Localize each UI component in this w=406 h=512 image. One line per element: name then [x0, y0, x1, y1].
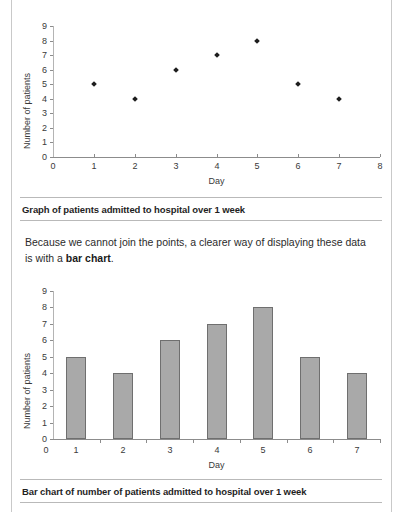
bar-y-tick-label: 1: [25, 419, 47, 428]
scatter-y-tick-label: 9: [25, 22, 47, 31]
scatter-y-axis-line: [53, 26, 54, 157]
bar-y-tick-label: 9: [25, 287, 47, 296]
bar-x-tick-mark: [333, 439, 334, 443]
bar-x-tick-mark: [193, 439, 194, 443]
bar-column: [207, 324, 227, 439]
bar-y-tick-mark: [50, 357, 53, 358]
scatter-x-tick-mark: [257, 154, 258, 157]
scatter-data-point: [132, 96, 138, 102]
scatter-x-tick-label: 2: [125, 162, 145, 171]
bar-y-tick-mark: [50, 291, 53, 292]
scatter-y-tick-label: 2: [25, 124, 47, 133]
scatter-y-tick-mark: [50, 41, 53, 42]
scatter-y-tick-label: 0: [25, 153, 47, 162]
bar-y-tick-mark: [50, 340, 53, 341]
caption1-rule-bottom: [20, 220, 382, 221]
scatter-y-tick-label: 1: [25, 138, 47, 147]
caption1-rule-top: [20, 197, 382, 198]
bar-column: [160, 340, 180, 439]
bar-y-tick-mark: [50, 307, 53, 308]
bar-x-tick-mark: [287, 439, 288, 443]
bar-y-tick-label: 4: [25, 369, 47, 378]
bar-y-tick-mark: [50, 439, 53, 440]
bar-y-tick-label: 3: [25, 386, 47, 395]
figure1-caption: Graph of patients admitted to hospital o…: [22, 204, 245, 215]
bar-origin-label: 0: [39, 446, 53, 455]
bar-y-tick-label: 2: [25, 402, 47, 411]
scatter-y-tick-mark: [50, 99, 53, 100]
bar-x-tick-label: 7: [345, 446, 369, 455]
bar-x-tick-label: 3: [158, 446, 182, 455]
bar-x-tick-label: 4: [205, 446, 229, 455]
bar-y-tick-label: 7: [25, 320, 47, 329]
scatter-x-tick-label: 4: [207, 162, 227, 171]
bar-y-tick-label: 5: [25, 353, 47, 362]
bar-x-tick-label: 2: [111, 446, 135, 455]
bar-y-tick-mark: [50, 406, 53, 407]
bar-x-axis-label: Day: [53, 460, 380, 470]
body-paragraph-bold: bar chart: [66, 252, 111, 264]
bar-column: [253, 307, 273, 439]
bar-column: [113, 373, 133, 439]
scatter-data-point: [255, 38, 261, 44]
bar-y-axis-line: [53, 291, 54, 439]
bar-x-tick-mark: [146, 439, 147, 443]
scatter-x-tick-mark: [339, 154, 340, 157]
bar-x-tick-mark: [240, 439, 241, 443]
bar-column: [300, 357, 320, 439]
bar-figure: Number of patients Day 01234567891234567…: [0, 283, 406, 468]
bar-y-tick-label: 6: [25, 336, 47, 345]
caption2-rule-top: [20, 479, 382, 480]
scatter-x-axis-label: Day: [53, 176, 380, 186]
bar-x-tick-mark: [380, 439, 381, 443]
scatter-data-point: [336, 96, 342, 102]
bar-plot-area: 012345678912345670: [53, 291, 380, 439]
bar-x-tick-mark: [100, 439, 101, 443]
scatter-data-point: [91, 81, 97, 87]
scatter-x-tick-label: 3: [166, 162, 186, 171]
scatter-x-tick-label: 1: [84, 162, 104, 171]
scatter-y-tick-mark: [50, 70, 53, 71]
scatter-x-tick-label: 5: [247, 162, 267, 171]
scatter-y-tick-mark: [50, 113, 53, 114]
caption2-rule-bottom: [20, 502, 382, 503]
scatter-y-tick-label: 6: [25, 66, 47, 75]
scatter-x-tick-mark: [380, 154, 381, 157]
bar-column: [347, 373, 367, 439]
scatter-data-point: [173, 67, 179, 73]
scatter-y-tick-mark: [50, 128, 53, 129]
bar-y-tick-mark: [50, 390, 53, 391]
scatter-y-tick-label: 4: [25, 95, 47, 104]
scatter-y-tick-label: 5: [25, 80, 47, 89]
scatter-figure: Number of patients Day 01234567890123456…: [0, 18, 406, 188]
scatter-x-tick-mark: [176, 154, 177, 157]
bar-y-tick-mark: [50, 324, 53, 325]
scatter-y-tick-label: 7: [25, 51, 47, 60]
scatter-x-tick-mark: [298, 154, 299, 157]
body-paragraph-tail: .: [111, 252, 114, 264]
scatter-x-tick-mark: [135, 154, 136, 157]
scatter-x-tick-label: 6: [288, 162, 308, 171]
scatter-y-tick-mark: [50, 157, 53, 158]
scatter-y-tick-label: 8: [25, 37, 47, 46]
clipped-header-text: [0, 0, 406, 2]
bar-y-tick-mark: [50, 373, 53, 374]
scatter-y-tick-label: 3: [25, 109, 47, 118]
scatter-y-tick-mark: [50, 55, 53, 56]
scatter-data-point: [295, 81, 301, 87]
bar-x-tick-label: 1: [64, 446, 88, 455]
scatter-x-tick-label: 8: [370, 162, 390, 171]
scatter-y-tick-mark: [50, 26, 53, 27]
scatter-data-point: [214, 52, 220, 58]
body-paragraph: Because we cannot join the points, a cle…: [25, 234, 375, 266]
scatter-x-axis-line: [53, 157, 380, 158]
bar-x-axis-line: [53, 439, 380, 440]
scatter-x-tick-mark: [94, 154, 95, 157]
scatter-plot-area: 0123456789012345678: [53, 26, 380, 157]
bar-y-tick-mark: [50, 423, 53, 424]
bar-y-tick-label: 8: [25, 303, 47, 312]
scatter-x-tick-mark: [217, 154, 218, 157]
figure2-caption: Bar chart of number of patients admitted…: [22, 486, 306, 497]
bar-x-tick-label: 6: [298, 446, 322, 455]
bar-y-tick-label: 0: [25, 435, 47, 444]
